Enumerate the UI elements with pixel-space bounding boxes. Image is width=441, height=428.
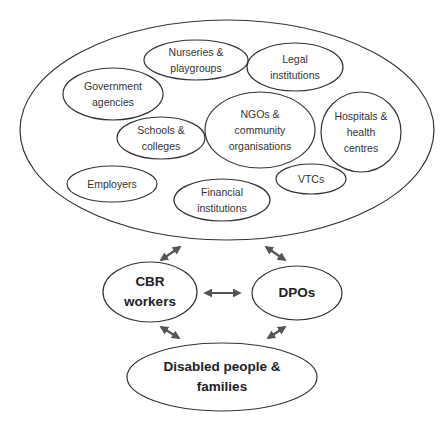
diagram-canvas: Nurseries & playgroups Legal institution… — [0, 0, 441, 428]
arrow-dpos-disabled — [268, 327, 285, 338]
legal-label: Legal institutions — [247, 43, 343, 91]
government-label: Government agencies — [63, 68, 163, 120]
schools-label: Schools & colleges — [117, 117, 205, 159]
employers-label: Employers — [67, 166, 157, 202]
hospitals-label: Hospitals & health centres — [321, 92, 401, 172]
ngos-label: NGOs & community organisations — [205, 92, 315, 168]
arrow-cbr-disabled — [161, 327, 179, 338]
vtcs-label: VTCs — [276, 164, 346, 194]
financial-label: Financial institutions — [174, 179, 270, 221]
disabled-people-label: Disabled people & families — [128, 343, 316, 411]
cbr-workers-label: CBR workers — [103, 262, 197, 322]
arrow-outer-dpos — [266, 247, 285, 260]
arrow-outer-cbr — [161, 247, 180, 260]
dpos-label: DPOs — [252, 266, 342, 320]
